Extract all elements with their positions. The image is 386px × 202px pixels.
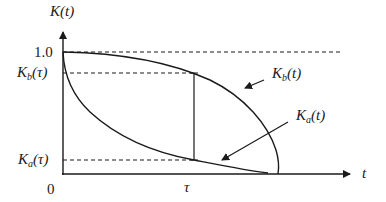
ka-tau-main: K [18,151,28,167]
x-axis-label: t [362,166,366,181]
y-axis-label-arg: (t) [60,3,74,19]
kb-tau-main: K [17,64,27,80]
reliability-diagram [0,0,386,202]
ka-t-main: K [296,107,306,123]
tick-label-kb-tau: Kb(τ) [17,65,47,82]
arrow-kb-label [245,80,264,88]
curve-kb [63,52,279,174]
y-axis-label-main: K [50,3,60,19]
curve-ka [63,52,268,173]
ka-t-arg: (t) [311,107,325,123]
curve-label-kb: Kb(t) [272,66,301,83]
origin-label: 0 [47,182,55,197]
kb-tau-arg: (τ) [32,64,47,80]
kb-t-arg: (t) [287,65,301,81]
kb-t-main: K [272,65,282,81]
arrow-ka-label [222,122,288,160]
curve-label-ka: Ka(t) [296,108,325,125]
ka-tau-arg: (τ) [33,151,48,167]
tick-label-tau: τ [184,180,189,195]
y-axis-label: K(t) [50,4,74,19]
tick-label-one: 1.0 [34,45,53,60]
tick-label-ka-tau: Ka(τ) [18,152,48,169]
